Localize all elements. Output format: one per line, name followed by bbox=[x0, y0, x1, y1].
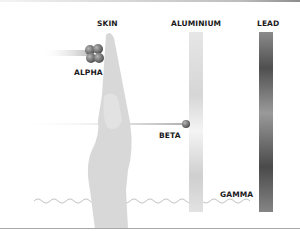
alpha-particle bbox=[85, 44, 104, 63]
alpha-trail bbox=[40, 50, 90, 56]
gamma-wave bbox=[34, 199, 250, 203]
lead-barrier bbox=[259, 32, 273, 212]
bottom-border bbox=[0, 228, 300, 229]
alpha-label: ALPHA bbox=[74, 68, 103, 77]
gamma-label: GAMMA bbox=[220, 190, 253, 199]
hand-skin bbox=[88, 33, 132, 229]
beta-label: BETA bbox=[159, 131, 181, 140]
radiation-diagram bbox=[0, 0, 300, 231]
beta-particle bbox=[182, 120, 190, 128]
aluminium-barrier bbox=[189, 32, 203, 212]
aluminium-label: ALUMINIUM bbox=[171, 19, 221, 28]
skin-label: SKIN bbox=[97, 19, 118, 28]
lead-label: LEAD bbox=[257, 19, 279, 28]
